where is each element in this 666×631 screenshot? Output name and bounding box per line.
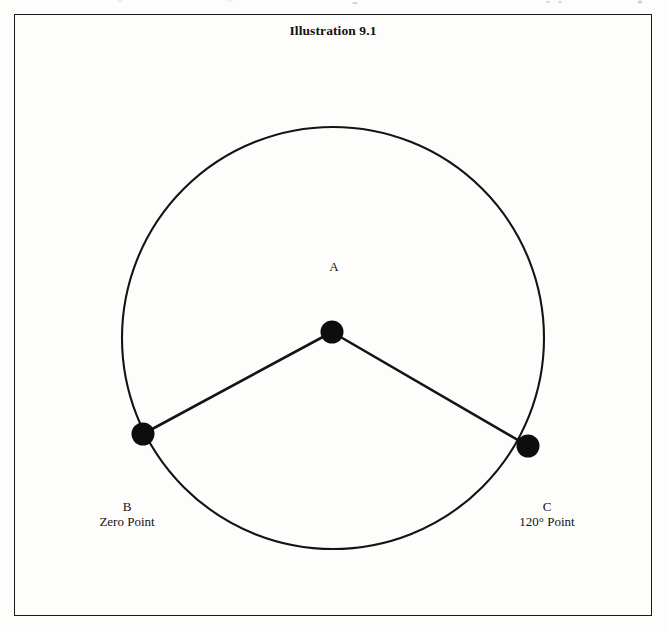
center-point-dot-a xyxy=(321,321,344,344)
circumference-point-dot-b xyxy=(132,423,155,446)
point-label-a: A xyxy=(304,259,364,274)
radius-segment-a-b xyxy=(143,332,332,434)
point-label-b-caption: Zero Point xyxy=(67,514,187,529)
point-label-c-letter: C xyxy=(487,499,607,514)
radius-segment-a-c xyxy=(332,332,528,446)
point-label-c-caption: 120° Point xyxy=(487,514,607,529)
point-label-b: B Zero Point xyxy=(67,499,187,529)
circle-diagram xyxy=(0,0,666,631)
point-label-c: C 120° Point xyxy=(487,499,607,529)
point-label-b-letter: B xyxy=(67,499,187,514)
circumference-point-dot-c xyxy=(517,435,540,458)
point-label-a-letter: A xyxy=(304,259,364,274)
figure-page: Illustration 9.1 A B Zero Point C 120° P… xyxy=(0,0,666,631)
